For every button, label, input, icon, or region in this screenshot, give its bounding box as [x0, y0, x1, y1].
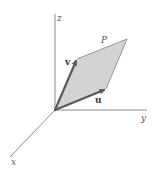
vector-v-label: v	[64, 57, 71, 67]
z-axis-label: z	[56, 13, 62, 23]
vector-u-label: u	[95, 95, 102, 105]
y-axis-label: y	[140, 113, 147, 123]
diagram-canvas: z y x P v u	[0, 0, 159, 173]
parallelogram-p	[55, 39, 127, 110]
region-p-label: P	[100, 35, 108, 45]
x-axis	[10, 110, 55, 157]
x-axis-label: x	[11, 157, 16, 167]
